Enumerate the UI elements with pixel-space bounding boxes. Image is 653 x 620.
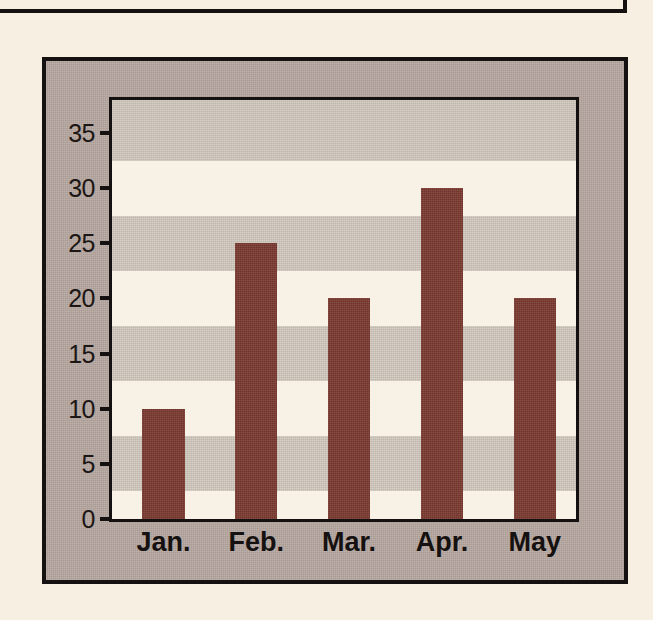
bar-mar [328, 298, 370, 519]
y-tick-label: 15 [68, 340, 95, 368]
y-tick-label: 0 [82, 505, 95, 533]
x-tick-label-feb: Feb. [210, 526, 303, 558]
y-tick-label: 10 [68, 395, 95, 423]
upper-box-bottom-edge [0, 0, 627, 13]
x-axis: Jan.Feb.Mar.Apr.May [109, 526, 579, 574]
x-tick-label-may: May [488, 526, 581, 558]
y-tick-label: 25 [68, 229, 95, 257]
bar-feb [235, 243, 277, 519]
x-tick-label-mar: Mar. [303, 526, 396, 558]
plot-area [109, 97, 579, 522]
y-tick-label: 35 [68, 119, 95, 147]
chart-figure-frame: 05101520253035 Jan.Feb.Mar.Apr.May [42, 57, 628, 584]
bar-apr [421, 188, 463, 519]
bar-may [514, 298, 556, 519]
y-axis: 05101520253035 [46, 97, 109, 522]
x-tick-label-jan: Jan. [117, 526, 210, 558]
bar-jan [142, 409, 184, 519]
y-tick-label: 30 [68, 174, 95, 202]
x-tick-label-apr: Apr. [396, 526, 489, 558]
bar-series [112, 100, 576, 519]
y-tick-label: 20 [68, 284, 95, 312]
y-tick-label: 5 [82, 450, 95, 478]
